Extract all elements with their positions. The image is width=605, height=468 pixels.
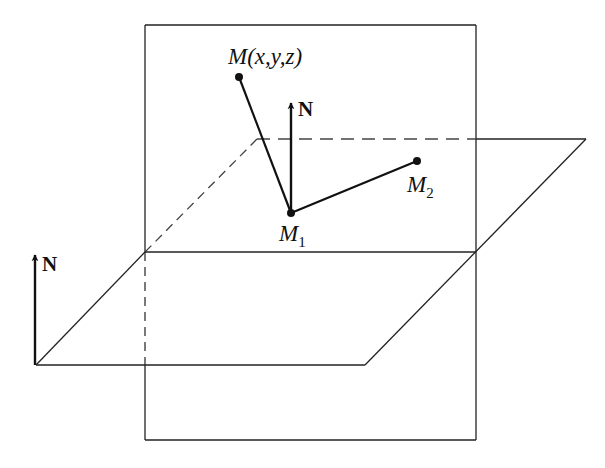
label-M1: M1 <box>279 222 306 245</box>
label-M2: M2 <box>407 173 434 196</box>
point-M2 <box>413 157 421 165</box>
label-N-left-text: N <box>42 252 57 276</box>
label-N-center-text: N <box>298 97 313 121</box>
label-M: M(x,y,z) <box>228 45 302 68</box>
segments <box>239 77 417 213</box>
label-N-left: N <box>42 254 57 275</box>
vertical-plane <box>145 25 476 440</box>
label-N-center: N <box>298 99 313 120</box>
label-M2-main: M <box>407 172 426 197</box>
point-M <box>235 73 243 81</box>
diagram-canvas: M(x,y,z) N N M1 M2 <box>0 0 605 468</box>
label-M2-sub: 2 <box>426 185 434 201</box>
point-M1 <box>287 209 295 217</box>
label-M1-main: M <box>279 221 298 246</box>
label-M1-sub: 1 <box>298 234 306 250</box>
horizontal-plane <box>36 139 586 365</box>
label-M-text: M(x,y,z) <box>228 44 302 69</box>
